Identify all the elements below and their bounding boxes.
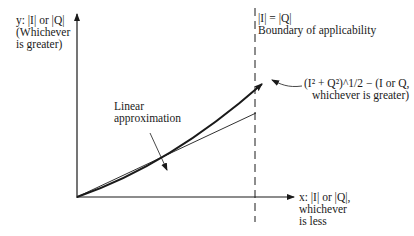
x-axis-label-line2: whichever: [299, 203, 350, 215]
y-axis-label-line3: is greater): [16, 38, 70, 50]
x-axis-label-line1: x: |I| or |Q|,: [299, 191, 350, 203]
curve-label-line2: whichever is greater): [304, 89, 409, 101]
boundary-label: |I| = |Q| Boundary of applicability: [258, 12, 376, 36]
linear-label-line2: approximation: [114, 112, 181, 124]
linear-label-line1: Linear: [114, 100, 181, 112]
linear-pointer-arrow: [150, 133, 167, 170]
linear-approximation-label: Linear approximation: [114, 100, 181, 124]
boundary-label-line1: |I| = |Q|: [258, 12, 376, 24]
x-axis-label: x: |I| or |Q|, whichever is less: [299, 191, 350, 227]
boundary-label-line2: Boundary of applicability: [258, 24, 376, 36]
curve-label: (I² + Q²)^1/2 − (I or Q, whichever is gr…: [304, 77, 409, 101]
curve-pointer-arrow: [272, 80, 302, 87]
y-axis-label: y: |I| or |Q| (Whichever is greater): [16, 14, 70, 50]
y-axis-label-line1: y: |I| or |Q|: [16, 14, 70, 26]
curve-label-line1: (I² + Q²)^1/2 − (I or Q,: [304, 77, 409, 89]
x-axis-label-line3: is less: [299, 215, 350, 227]
y-axis-label-line2: (Whichever: [16, 26, 70, 38]
